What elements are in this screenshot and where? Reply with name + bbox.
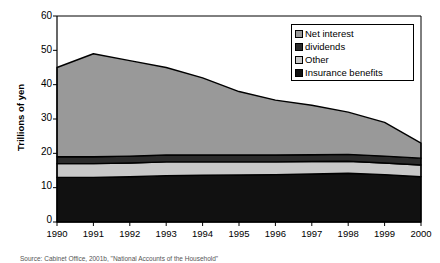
legend-item: Insurance benefits: [295, 66, 410, 79]
x-tick-1994: 1994: [183, 228, 223, 239]
x-tick-1997: 1997: [292, 228, 332, 239]
x-tick-1993: 1993: [146, 228, 186, 239]
x-tick-1991: 1991: [73, 228, 113, 239]
legend: Net interestdividendsOtherInsurance bene…: [291, 24, 414, 81]
x-tick-1990: 1990: [37, 228, 77, 239]
figure-caption: Source: Cabinet Office, 2001b, "National…: [20, 255, 218, 263]
legend-item: dividends: [295, 40, 410, 53]
x-tick-1999: 1999: [365, 228, 405, 239]
legend-swatch-insurance-benefits: [295, 69, 303, 77]
legend-swatch-net-interest: [295, 30, 303, 38]
x-tick-1992: 1992: [110, 228, 150, 239]
legend-swatch-other: [295, 56, 303, 64]
x-tick-1995: 1995: [219, 228, 259, 239]
x-tick-1998: 1998: [328, 228, 368, 239]
legend-label: Net interest: [305, 29, 354, 39]
area-series-insurance-benefits: [57, 173, 421, 222]
legend-label: Insurance benefits: [305, 68, 383, 78]
x-tick-2000: 2000: [401, 228, 440, 239]
legend-label: dividends: [305, 42, 345, 52]
x-axis-tick-labels: 1990199119921993199419951996199719981999…: [57, 228, 421, 242]
legend-item: Net interest: [295, 27, 410, 40]
legend-label: Other: [305, 55, 329, 65]
legend-swatch-dividends: [295, 43, 303, 51]
legend-item: Other: [295, 53, 410, 66]
chart-figure: Trillions of yen 60 50 40 30 20 10 0 199…: [0, 0, 440, 263]
x-tick-1996: 1996: [255, 228, 295, 239]
